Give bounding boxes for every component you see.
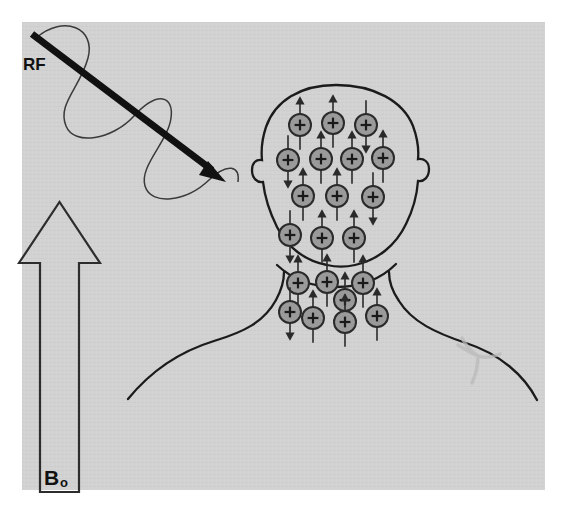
panel-texture [22, 22, 545, 490]
mri-spin-diagram: B o RF [0, 0, 569, 508]
b0-label: B [44, 466, 59, 489]
rf-label: RF [23, 55, 46, 74]
b0-subscript: o [60, 475, 68, 490]
figure-root: B o RF [0, 0, 569, 508]
